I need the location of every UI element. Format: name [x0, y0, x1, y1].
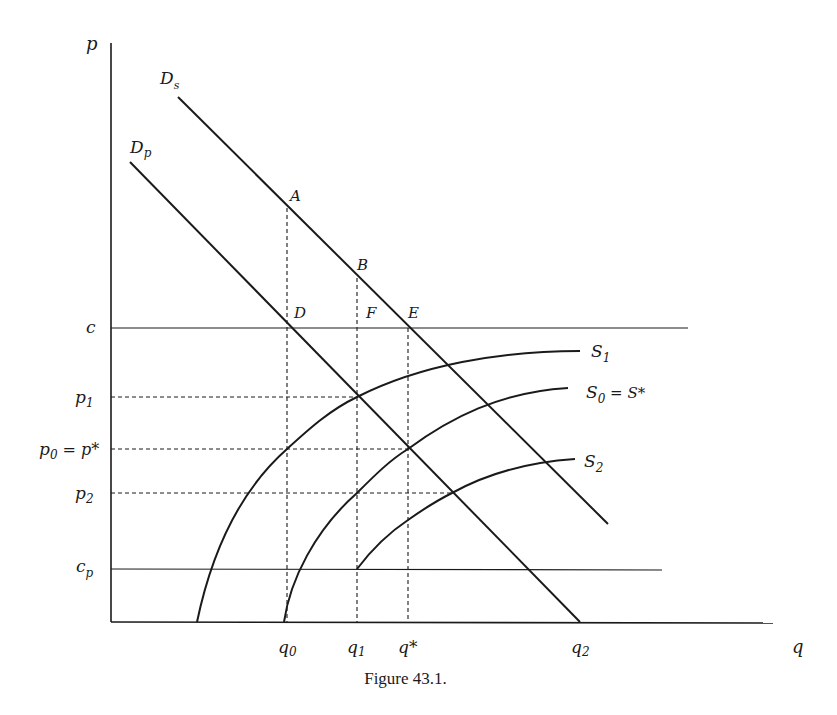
supply-demand-diagram: p q Ds Dp S1 S0 = S* S2 A B D F E c p1 p…	[0, 0, 837, 715]
cp-line	[111, 569, 662, 570]
label-p0-pstar: p0 = p*	[39, 439, 99, 462]
label-dp: Dp	[129, 137, 152, 160]
label-q0: q0	[278, 637, 297, 659]
label-s1: S1	[591, 341, 610, 365]
supply-curve-s2	[357, 459, 575, 569]
label-c: c	[86, 317, 96, 337]
point-d: D	[293, 304, 306, 322]
label-p1: p1	[75, 387, 94, 410]
point-e: E	[407, 304, 419, 322]
point-b: B	[356, 256, 368, 274]
supply-curve-s0	[284, 388, 568, 622]
figure-caption: Figure 43.1.	[0, 669, 837, 689]
point-f: F	[365, 304, 377, 322]
label-q2: q2	[571, 637, 590, 659]
supply-curve-s1	[197, 351, 580, 622]
label-cp: cp	[76, 556, 94, 580]
label-p2: p2	[75, 483, 94, 506]
label-s2: S2	[584, 451, 603, 475]
x-axis-label: q	[792, 636, 804, 657]
label-q1: q1	[347, 637, 366, 659]
label-ds: Ds	[159, 68, 180, 92]
y-axis-label: p	[86, 33, 98, 54]
private-demand-curve	[130, 162, 580, 622]
point-a: A	[288, 187, 301, 205]
label-qstar: q*	[398, 637, 418, 657]
x-axis	[111, 622, 773, 623]
label-s0: S0 = S*	[586, 382, 646, 406]
